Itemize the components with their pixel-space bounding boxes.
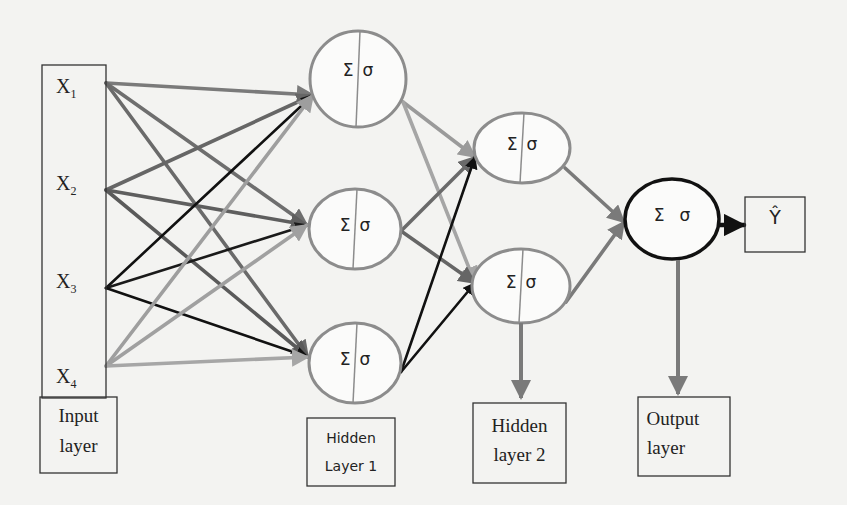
sum-symbol: Σ [340, 215, 351, 235]
input-nodes: X1X2X3X4 [56, 75, 76, 391]
y-hat-label: Ŷ [768, 205, 781, 228]
input-label-x2: X2 [56, 172, 76, 198]
hidden-layer-1-label-line2: Layer 1 [325, 458, 377, 474]
neuron-h2b: Σσ [472, 249, 570, 323]
sum-symbol: Σ [507, 134, 518, 154]
input-subscript: 1 [70, 87, 76, 101]
sigma-activation-symbol: σ [526, 272, 537, 292]
sigma-activation-symbol: σ [527, 134, 538, 154]
hidden-layer-1-label-box [307, 418, 395, 486]
neuron-out: Σσ [625, 179, 719, 259]
input-layer-label-line1: Input [58, 405, 99, 426]
edge-h1b-to-h2a [401, 157, 475, 231]
edge-x4-to-h1b [106, 225, 307, 366]
input-label-x4: X4 [56, 365, 76, 391]
sum-symbol: Σ [506, 272, 517, 292]
edge-x1-to-h1a [106, 83, 313, 95]
edge-x4-to-h1c [106, 357, 308, 366]
neuron-h1a: Σσ [310, 31, 406, 127]
sum-symbol: Σ [654, 205, 665, 225]
edge-h1c-to-h2b [401, 283, 475, 372]
sigma-activation-symbol: σ [680, 205, 691, 225]
input-layer-label-line2: layer [60, 435, 99, 456]
hidden-layer-1-label-line1: Hidden [326, 430, 376, 446]
edge-x1-to-h1b [106, 83, 307, 225]
neural-network-diagram: X1X2X3X4 Input layer ΣσΣσΣσΣσΣσΣσ Hidden… [0, 0, 847, 505]
neurons: ΣσΣσΣσΣσΣσΣσ [309, 31, 719, 403]
sum-symbol: Σ [340, 349, 351, 369]
input-label-x1: X1 [56, 75, 76, 101]
input-subscript: 3 [70, 282, 76, 296]
neuron-h1c: Σσ [309, 323, 401, 403]
output-layer-label-line1: Output [647, 408, 701, 429]
hidden-layer-2-label-line2: layer 2 [493, 444, 545, 465]
sigma-activation-symbol: σ [360, 349, 371, 369]
sigma-activation-symbol: σ [363, 60, 374, 80]
neuron-h1b: Σσ [309, 189, 401, 269]
input-subscript: 4 [70, 377, 76, 391]
sigma-activation-symbol: σ [360, 215, 371, 235]
edge-h2b-to-out [566, 222, 624, 302]
output-layer-label-line2: layer [647, 437, 686, 458]
sum-symbol: Σ [343, 60, 354, 80]
edge-h2a-to-out [565, 168, 624, 222]
input-label-x3: X3 [56, 270, 76, 296]
edge-x2-to-h1c [106, 190, 308, 357]
input-column [42, 65, 106, 398]
edge-x2-to-h1a [106, 95, 313, 190]
hidden-layer-2-label-line1: Hidden [492, 415, 548, 436]
neuron-circle [625, 179, 719, 259]
edge-x4-to-h1a [106, 95, 313, 366]
neuron-h2a: Σσ [474, 113, 570, 183]
input-subscript: 2 [70, 184, 76, 198]
